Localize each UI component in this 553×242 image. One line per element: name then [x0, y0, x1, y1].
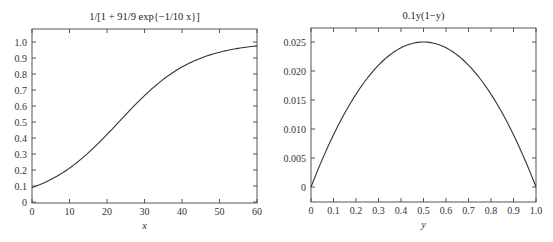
- x-tick-label: 30: [140, 206, 150, 217]
- x-tick-label: 0.5: [417, 205, 430, 216]
- y-tick-label: 0.1: [15, 181, 28, 192]
- y-tick-label: 1.0: [15, 37, 28, 48]
- y-tick-label: 0.4: [15, 133, 28, 144]
- data-line: [311, 42, 536, 187]
- data-line: [32, 46, 257, 188]
- y-tick-label: 0: [22, 197, 27, 208]
- x-tick-label: 0.1: [327, 205, 340, 216]
- y-tick-label: 0.020: [284, 66, 307, 77]
- x-tick-label: 40: [177, 206, 187, 217]
- x-axis-label: x: [141, 220, 147, 231]
- x-tick-label: 0.9: [507, 205, 520, 216]
- y-tick-label: 0.005: [284, 153, 307, 164]
- x-axis-label: y: [420, 219, 426, 230]
- x-tick-label: 10: [65, 206, 75, 217]
- y-tick-label: 0: [301, 182, 306, 193]
- x-tick-label: 0.7: [462, 205, 475, 216]
- y-tick-label: 0.3: [15, 149, 28, 160]
- x-tick-label: 60: [252, 206, 262, 217]
- y-tick-label: 0.6: [15, 101, 28, 112]
- y-tick-label: 0.7: [15, 85, 28, 96]
- y-tick-label: 0.5: [15, 117, 28, 128]
- x-tick-label: 0: [309, 205, 314, 216]
- plot-frame: [311, 28, 536, 202]
- x-tick-label: 1.0: [530, 205, 543, 216]
- x-tick-label: 50: [215, 206, 225, 217]
- x-tick-label: 0.4: [395, 205, 408, 216]
- chart-figure: 1/[1 + 91/9 exp{−1/10 x}]x01020304050600…: [0, 0, 553, 242]
- x-tick-label: 20: [102, 206, 112, 217]
- x-tick-label: 0.8: [485, 205, 498, 216]
- x-tick-label: 0.6: [440, 205, 453, 216]
- chart-panel-1: 1/[1 + 91/9 exp{−1/10 x}]x01020304050600…: [15, 11, 263, 231]
- y-tick-label: 0.025: [284, 37, 307, 48]
- x-tick-label: 0.2: [350, 205, 363, 216]
- y-tick-label: 0.015: [284, 95, 307, 106]
- y-tick-label: 0.8: [15, 69, 28, 80]
- y-tick-label: 0.9: [15, 53, 28, 64]
- chart-title: 1/[1 + 91/9 exp{−1/10 x}]: [89, 11, 200, 22]
- plot-frame: [32, 29, 257, 203]
- chart-title: 0.1y(1−y): [403, 10, 445, 22]
- y-tick-label: 0.2: [15, 165, 28, 176]
- y-tick-label: 0.010: [284, 124, 307, 135]
- x-tick-label: 0: [30, 206, 35, 217]
- x-tick-label: 0.3: [372, 205, 385, 216]
- chart-panel-2: 0.1y(1−y)y00.10.20.30.40.50.60.70.80.91.…: [284, 10, 543, 230]
